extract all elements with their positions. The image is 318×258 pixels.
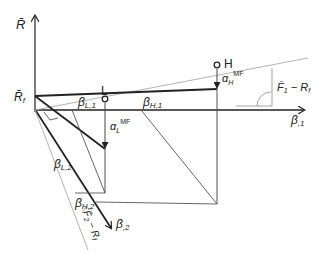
beta-h1-projection	[141, 110, 217, 204]
beta-l1-label: βL,1	[77, 95, 96, 110]
beta-h2-projection	[96, 202, 217, 204]
h-point-marker	[214, 62, 220, 68]
beta2-axis-label: β,2	[115, 217, 130, 232]
rf-label: R̄f	[14, 90, 26, 105]
l-point-label: L	[101, 84, 108, 98]
slope-angle-arc-1	[257, 92, 271, 106]
beta-h1-label: βH,1	[142, 95, 162, 110]
alpha-h-label: αHMF	[222, 70, 243, 86]
rf-to-h-line	[35, 89, 217, 96]
slope1-label: F̄1 − Rf	[277, 81, 311, 94]
origin-angle-arc	[44, 112, 58, 120]
security-market-line-diagram: R̄ R̄f β,1 β,2 L H αLMF αHMF βL,1 βH,1 β…	[0, 0, 318, 258]
vertical-axis-label: R̄	[16, 17, 25, 32]
beta1-axis-label: β,1	[290, 113, 305, 128]
slope2-label: F̄2 − Rf	[80, 208, 103, 242]
beta-l1-projection	[72, 110, 105, 193]
beta-l2-label: βL,2	[53, 157, 73, 172]
alpha-l-label: αLMF	[110, 118, 130, 134]
h-point-label: H	[224, 57, 233, 71]
slope-line-1	[35, 58, 308, 110]
